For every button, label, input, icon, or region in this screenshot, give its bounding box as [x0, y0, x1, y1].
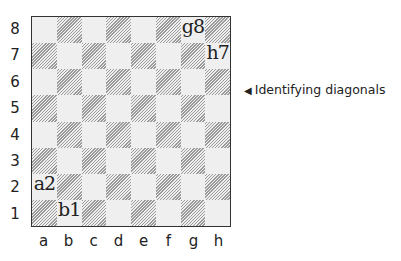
square-a8 [32, 17, 57, 43]
square-g5 [181, 95, 206, 121]
square-d1 [106, 200, 131, 226]
square-e3 [131, 148, 156, 174]
square-f3 [156, 148, 181, 174]
file-label: c [81, 232, 106, 250]
rank-label: 5 [8, 99, 22, 117]
square-h2 [205, 174, 230, 200]
square-c3 [82, 148, 107, 174]
square-c6 [82, 69, 107, 95]
file-label: f [156, 232, 181, 250]
rank-label: 6 [8, 73, 22, 91]
square-b8 [57, 17, 82, 43]
square-f5 [156, 95, 181, 121]
square-e2 [131, 174, 156, 200]
square-a5 [32, 95, 57, 121]
square-c5 [82, 95, 107, 121]
file-label: e [131, 232, 156, 250]
square-f4 [156, 122, 181, 148]
square-d4 [106, 122, 131, 148]
square-f7 [156, 43, 181, 69]
square-h5 [205, 95, 230, 121]
caption-text: Identifying diagonals [255, 82, 386, 97]
square-b7 [57, 43, 82, 69]
square-d5 [106, 95, 131, 121]
file-label: h [206, 232, 231, 250]
left-pointer-icon: ◀ [244, 85, 252, 96]
chessboard: g8h7a2b1 [31, 16, 231, 227]
square-g2 [181, 174, 206, 200]
square-g8: g8 [181, 17, 206, 43]
rank-label: 8 [8, 20, 22, 38]
square-label: g8 [181, 15, 206, 37]
rank-label: 1 [8, 205, 22, 223]
square-b3 [57, 148, 82, 174]
rank-label: 7 [8, 46, 22, 64]
square-d7 [106, 43, 131, 69]
square-c7 [82, 43, 107, 69]
square-label: b1 [57, 198, 82, 220]
square-h6 [205, 69, 230, 95]
square-b6 [57, 69, 82, 95]
square-h3 [205, 148, 230, 174]
square-g4 [181, 122, 206, 148]
square-c1 [82, 200, 107, 226]
square-c8 [82, 17, 107, 43]
rank-label: 2 [8, 178, 22, 196]
square-label: a2 [32, 172, 57, 194]
square-f1 [156, 200, 181, 226]
file-label: b [56, 232, 81, 250]
square-e7 [131, 43, 156, 69]
square-f8 [156, 17, 181, 43]
caption: ◀Identifying diagonals [244, 82, 385, 97]
square-d6 [106, 69, 131, 95]
square-h7: h7 [205, 43, 230, 69]
square-d8 [106, 17, 131, 43]
square-c4 [82, 122, 107, 148]
square-b5 [57, 95, 82, 121]
square-f2 [156, 174, 181, 200]
square-b2 [57, 174, 82, 200]
square-d2 [106, 174, 131, 200]
square-h8 [205, 17, 230, 43]
square-f6 [156, 69, 181, 95]
square-a7 [32, 43, 57, 69]
square-e4 [131, 122, 156, 148]
square-g7 [181, 43, 206, 69]
square-b4 [57, 122, 82, 148]
square-h1 [205, 200, 230, 226]
square-a1 [32, 200, 57, 226]
square-h4 [205, 122, 230, 148]
square-g1 [181, 200, 206, 226]
file-label: g [181, 232, 206, 250]
square-d3 [106, 148, 131, 174]
square-e5 [131, 95, 156, 121]
file-label: d [106, 232, 131, 250]
rank-label: 4 [8, 126, 22, 144]
square-a6 [32, 69, 57, 95]
file-label: a [31, 232, 56, 250]
square-g6 [181, 69, 206, 95]
square-e1 [131, 200, 156, 226]
square-c2 [82, 174, 107, 200]
square-b1: b1 [57, 200, 82, 226]
square-g3 [181, 148, 206, 174]
square-a2: a2 [32, 174, 57, 200]
square-e6 [131, 69, 156, 95]
square-a3 [32, 148, 57, 174]
square-a4 [32, 122, 57, 148]
square-e8 [131, 17, 156, 43]
rank-label: 3 [8, 152, 22, 170]
square-label: h7 [205, 41, 230, 63]
